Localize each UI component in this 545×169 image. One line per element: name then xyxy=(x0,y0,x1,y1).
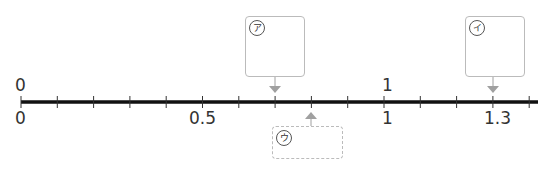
box-u-badge: ウ xyxy=(276,130,292,146)
label-above-1: 1 xyxy=(382,77,393,94)
label-below-1-3: 1.3 xyxy=(484,110,511,127)
number-line-diagram: 0 1 0 0.5 1 1.3 ア イ ウ xyxy=(0,0,545,169)
label-below-0: 0 xyxy=(15,110,26,127)
box-a-badge: ア xyxy=(249,20,265,36)
arrow-i xyxy=(487,77,499,93)
answer-box-a[interactable]: ア xyxy=(245,16,305,77)
label-below-0-5: 0.5 xyxy=(189,110,216,127)
arrow-a xyxy=(269,77,281,93)
label-above-0: 0 xyxy=(15,77,26,94)
answer-box-u[interactable]: ウ xyxy=(272,126,343,159)
answer-box-i[interactable]: イ xyxy=(465,16,525,77)
label-below-1: 1 xyxy=(382,110,393,127)
arrow-u xyxy=(305,112,317,126)
box-i-badge: イ xyxy=(469,20,485,36)
